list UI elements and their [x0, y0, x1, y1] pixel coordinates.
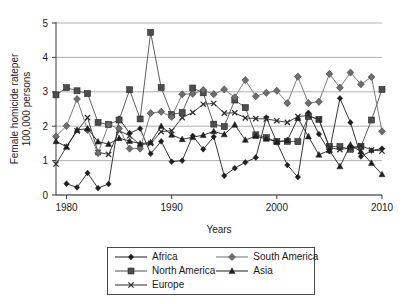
data-point-marker [348, 120, 353, 126]
data-point-marker [337, 95, 342, 101]
data-point-marker [64, 181, 69, 187]
data-point-marker [95, 119, 101, 125]
data-point-marker [211, 128, 217, 134]
legend-marker-x-icon [114, 279, 148, 291]
y-tick-labels-group: 012345 [42, 18, 48, 201]
data-point-marker [190, 110, 195, 115]
legend-marker-diamond-gray-icon [215, 251, 249, 263]
y-axis-title: Female homicide rateper100,000 persons [9, 53, 32, 164]
line-chart-plot: 012345 1980199020002010 YearsFemale homi… [0, 0, 404, 240]
y-tick-label-2: 2 [42, 121, 48, 132]
legend-marker-triangle-icon [215, 265, 249, 277]
data-point-marker [232, 122, 238, 128]
data-point-marker [128, 254, 133, 260]
series-line [56, 73, 382, 153]
y-tick-label-0: 0 [42, 190, 48, 201]
legend-entry-africa[interactable]: Africa [114, 251, 215, 264]
data-point-marker [242, 77, 249, 84]
data-point-marker [232, 165, 237, 171]
data-point-marker [337, 163, 343, 169]
gridlines-group [56, 23, 382, 195]
y-tick-label-4: 4 [42, 52, 48, 63]
x-tick-label-1990: 1990 [161, 202, 184, 213]
x-tick-label-2010: 2010 [371, 202, 394, 213]
x-tick-labels-group: 1980199020002010 [55, 202, 393, 213]
x-axis-title: Years [206, 224, 231, 235]
data-point-marker [379, 128, 386, 135]
chart-figure: 012345 1980199020002010 YearsFemale homi… [0, 0, 404, 304]
data-point-marker [263, 89, 270, 96]
data-point-marker [106, 181, 111, 187]
data-point-marker [158, 85, 164, 91]
data-point-marker [294, 73, 301, 80]
data-point-marker [126, 145, 133, 152]
legend-label: South America [253, 251, 318, 263]
data-point-marker [347, 142, 353, 148]
data-point-marker [316, 131, 321, 137]
legend-label: Europe [152, 279, 184, 291]
data-point-marker [305, 133, 311, 139]
data-point-marker [64, 85, 70, 91]
legend-entry-asia[interactable]: Asia [215, 265, 318, 278]
legend-entry-europe[interactable]: Europe [114, 279, 215, 292]
y-tick-label-1: 1 [42, 155, 48, 166]
y-axis-title-line1: Female homicide rateper [9, 53, 20, 164]
data-series-group [53, 29, 386, 191]
legend-marker-diamond-icon [114, 251, 148, 263]
data-point-marker [53, 92, 59, 98]
data-point-marker [128, 268, 134, 274]
data-point-marker [316, 152, 322, 158]
legend-entry-south-america[interactable]: South America [215, 251, 318, 264]
data-point-marker [252, 93, 259, 100]
data-point-marker [137, 116, 143, 122]
data-point-marker [158, 108, 165, 115]
y-tick-label-5: 5 [42, 18, 48, 29]
data-point-marker [211, 121, 217, 127]
data-point-marker [189, 90, 196, 97]
data-point-marker [127, 87, 133, 93]
data-point-marker [295, 139, 301, 145]
data-point-marker [179, 109, 185, 115]
legend-entry-north-america[interactable]: North America [114, 265, 215, 278]
data-point-marker [74, 88, 80, 94]
legend-label: North America [152, 265, 215, 277]
data-point-marker [148, 29, 154, 35]
data-point-marker [242, 105, 248, 111]
legend-marker-square-icon [114, 265, 148, 277]
axis-titles-group: YearsFemale homicide rateper100,000 pers… [9, 53, 232, 235]
series-south-america [53, 69, 386, 157]
data-point-marker [85, 91, 91, 97]
legend-label: Asia [253, 265, 272, 277]
data-point-marker [53, 138, 59, 144]
chart-legend: AfricaSouth AmericaNorth AmericaAsiaEuro… [107, 247, 315, 295]
data-point-marker [147, 110, 154, 117]
x-tick-label-1980: 1980 [55, 202, 78, 213]
data-point-marker [221, 124, 227, 130]
data-point-marker [316, 98, 323, 105]
data-point-marker [379, 86, 385, 92]
data-point-marker [222, 173, 227, 179]
data-point-marker [368, 73, 375, 80]
y-axis-title-line2: 100,000 persons [21, 72, 32, 147]
data-point-marker [180, 115, 185, 120]
legend-label: Africa [152, 251, 178, 263]
series-africa [64, 95, 385, 191]
tick-marks-group [52, 23, 382, 199]
data-point-marker [337, 143, 343, 149]
data-point-marker [116, 117, 122, 123]
data-point-marker [179, 158, 184, 164]
data-point-marker [74, 95, 81, 102]
x-tick-label-2000: 2000 [266, 202, 289, 213]
data-point-marker [253, 155, 258, 161]
data-point-marker [368, 117, 374, 123]
data-point-marker [305, 100, 312, 107]
y-tick-label-3: 3 [42, 86, 48, 97]
data-point-marker [169, 159, 174, 165]
data-point-marker [85, 115, 90, 120]
data-point-marker [358, 154, 363, 160]
data-point-marker [229, 253, 236, 260]
series-north-america [53, 29, 385, 152]
